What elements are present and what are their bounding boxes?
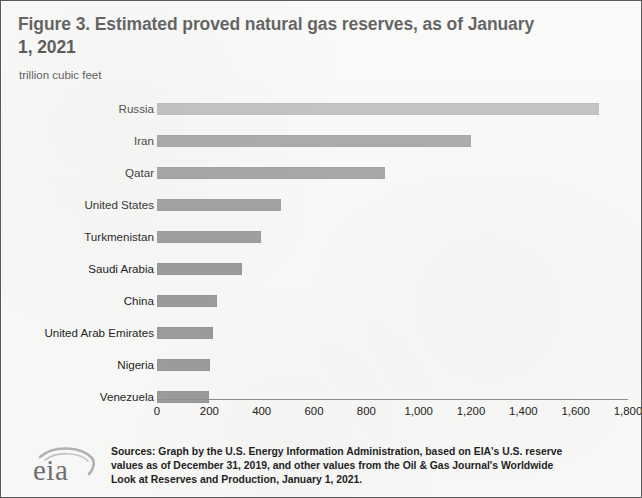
source-note-line: Sources: Graph by the U.S. Energy Inform…	[111, 445, 616, 459]
category-label: United States	[84, 189, 154, 221]
bar-row: Nigeria	[1, 349, 642, 381]
x-axis-tick-label: 800	[357, 403, 376, 419]
x-axis-tick-label: 1,800	[614, 403, 642, 419]
bar-row: China	[1, 285, 642, 317]
bar-track	[157, 167, 628, 179]
bar-track	[157, 327, 628, 339]
category-label: Russia	[119, 93, 154, 125]
bar	[157, 295, 217, 307]
bar-row: United Arab Emirates	[1, 317, 642, 349]
bar-row: Turkmenistan	[1, 221, 642, 253]
bar-track	[157, 295, 628, 307]
eia-wordmark: eia	[33, 455, 68, 485]
figure-footer: eia Sources: Graph by the U.S. Energy In…	[1, 438, 642, 498]
x-axis-tick-label: 1,600	[561, 403, 590, 419]
bar-track	[157, 135, 628, 147]
bar	[157, 135, 471, 147]
chart-plot-area: RussiaIranQatarUnited StatesTurkmenistan…	[1, 1, 642, 431]
x-axis-tick-label: 1,000	[404, 403, 433, 419]
bar-track	[157, 263, 628, 275]
bar-track	[157, 359, 628, 371]
category-label: Qatar	[125, 157, 154, 189]
x-axis-tick-label: 1,200	[457, 403, 486, 419]
bar	[157, 359, 210, 371]
bar-track	[157, 103, 628, 115]
category-label: Saudi Arabia	[88, 253, 154, 285]
bar	[157, 391, 209, 403]
bar	[157, 103, 599, 115]
x-axis-tick-labels: 02004006008001,0001,2001,4001,6001,800	[1, 403, 642, 423]
bar-row: Russia	[1, 93, 642, 125]
x-axis-tick-label: 0	[154, 403, 160, 419]
bar	[157, 263, 242, 275]
bar-track	[157, 199, 628, 211]
bar-row: Saudi Arabia	[1, 253, 642, 285]
category-label: Turkmenistan	[84, 221, 154, 253]
x-axis-line	[157, 399, 628, 400]
category-label: United Arab Emirates	[44, 317, 154, 349]
bar-row: Qatar	[1, 157, 642, 189]
bar	[157, 231, 261, 243]
x-axis-tick-label: 400	[252, 403, 271, 419]
category-label: China	[124, 285, 154, 317]
source-note-line: values as of December 31, 2019, and othe…	[111, 459, 616, 473]
x-axis-tick-label: 600	[304, 403, 323, 419]
bar-track	[157, 231, 628, 243]
figure-container: Figure 3. Estimated proved natural gas r…	[0, 0, 642, 498]
bar	[157, 167, 385, 179]
bar	[157, 327, 213, 339]
bar-row: Iran	[1, 125, 642, 157]
x-axis-tick-label: 1,400	[509, 403, 538, 419]
category-label: Iran	[134, 125, 154, 157]
source-note: Sources: Graph by the U.S. Energy Inform…	[111, 445, 616, 488]
category-label: Nigeria	[117, 349, 154, 381]
source-note-line: Look at Reserves and Production, January…	[111, 473, 616, 487]
bar-row: United States	[1, 189, 642, 221]
x-axis-tick-label: 200	[200, 403, 219, 419]
eia-logo: eia	[31, 444, 103, 490]
bar-track	[157, 391, 628, 403]
bar	[157, 199, 281, 211]
